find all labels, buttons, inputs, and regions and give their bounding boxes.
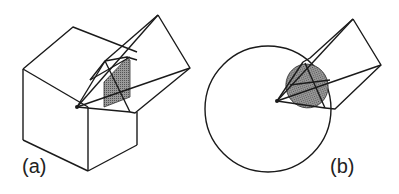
panel-a-frustum bbox=[77, 15, 190, 113]
panel-b-label: (b) bbox=[330, 155, 354, 178]
panel-a-apex bbox=[75, 105, 79, 109]
panel-a-label: (a) bbox=[22, 155, 46, 178]
panel-b-apex bbox=[275, 99, 279, 103]
